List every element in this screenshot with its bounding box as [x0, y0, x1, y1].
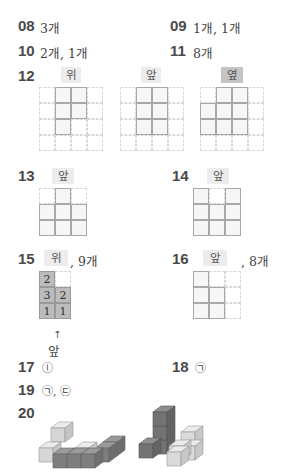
grid-cell — [55, 188, 71, 204]
q16-view-label: 앞 — [203, 250, 227, 266]
grid-cell — [39, 103, 55, 119]
grid-cell: 3 — [39, 287, 55, 303]
view-label-side: 옆 — [221, 67, 243, 83]
answer-11: 8개 — [193, 43, 213, 62]
grid-cell — [152, 135, 168, 151]
view-label-top: 위 — [61, 67, 81, 83]
grid-cell — [39, 188, 55, 204]
grid-cell — [87, 87, 103, 103]
grid-cell — [71, 220, 87, 236]
grid-cell — [200, 119, 216, 135]
grid-cell — [193, 220, 209, 236]
grid-cell — [168, 135, 184, 151]
grid-cell: 1 — [55, 303, 71, 319]
grid-cell — [71, 188, 87, 204]
grid-cell — [152, 87, 168, 103]
question-number-08: 08 — [18, 17, 35, 34]
grid-cell — [120, 87, 136, 103]
question-number-10: 10 — [18, 42, 35, 59]
grid-cell — [209, 220, 225, 236]
grid-cell — [193, 188, 209, 204]
grid-cell — [193, 287, 209, 303]
answer-09: 1개, 1개 — [193, 18, 241, 37]
grid-cell — [200, 103, 216, 119]
grid-cell — [136, 103, 152, 119]
view-label-front: 앞 — [141, 67, 161, 83]
question-number-15: 15 — [18, 250, 35, 267]
question-number-13: 13 — [18, 167, 35, 184]
grid-cell — [209, 287, 225, 303]
q16-count: , 8개 — [241, 251, 269, 270]
grid-cell — [225, 188, 241, 204]
grid-cell — [209, 188, 225, 204]
cube-structure-1 — [35, 412, 135, 475]
grid-cell — [216, 135, 232, 151]
grid-cell — [55, 271, 71, 287]
grid-cell — [225, 204, 241, 220]
question-number-19: 19 — [18, 381, 35, 398]
grid-cell — [136, 87, 152, 103]
grid-cell — [71, 204, 87, 220]
grid-cell — [209, 271, 225, 287]
q15-view-label: 위 — [44, 250, 68, 266]
cube-structure-2 — [135, 398, 215, 475]
grid-cell — [168, 103, 184, 119]
grid-cell — [39, 204, 55, 220]
question-number-18: 18 — [172, 358, 189, 375]
grid-cell — [225, 287, 241, 303]
grid-cell — [55, 103, 71, 119]
grid-cell — [71, 119, 87, 135]
grid-cell — [216, 103, 232, 119]
grid-cell — [248, 103, 264, 119]
arrow-up-icon: ↑ — [53, 329, 61, 340]
grid-cell — [39, 220, 55, 236]
grid-cell — [200, 135, 216, 151]
grid-cell — [39, 87, 55, 103]
q15-front-label: 앞 — [48, 341, 60, 360]
grid-cell: 2 — [39, 271, 55, 287]
grid-cell — [55, 220, 71, 236]
q15-count: , 9개 — [70, 251, 98, 270]
question-number-09: 09 — [170, 17, 187, 34]
grid-cell — [71, 103, 87, 119]
grid-cell — [136, 135, 152, 151]
answer-10: 2개, 1개 — [40, 43, 88, 62]
answer-19: ㉠, ㉢ — [42, 382, 71, 398]
grid-cell — [55, 87, 71, 103]
grid-cell — [232, 103, 248, 119]
grid-cell — [120, 135, 136, 151]
q13-view-label: 앞 — [52, 168, 74, 184]
question-number-16: 16 — [172, 250, 189, 267]
grid-cell — [193, 204, 209, 220]
grid-cell — [193, 271, 209, 287]
grid-cell: 2 — [55, 287, 71, 303]
grid-cell — [209, 303, 225, 319]
grid-cell — [55, 119, 71, 135]
grid-cell — [55, 204, 71, 220]
grid-cell — [216, 87, 232, 103]
grid-cell — [200, 87, 216, 103]
question-number-17: 17 — [18, 358, 35, 375]
grid-cell — [87, 103, 103, 119]
grid-cell — [120, 119, 136, 135]
answer-17: ⓛ — [42, 359, 53, 375]
question-number-11: 11 — [170, 42, 186, 59]
grid-cell — [225, 220, 241, 236]
answer-08: 3개 — [40, 18, 60, 37]
grid-cell — [248, 87, 264, 103]
grid-cell — [152, 119, 168, 135]
grid-cell — [248, 135, 264, 151]
grid-cell — [120, 103, 136, 119]
grid-cell — [225, 303, 241, 319]
grid-cell — [39, 119, 55, 135]
answer-18: ㉠ — [195, 359, 206, 375]
grid-cell — [71, 135, 87, 151]
grid-cell — [248, 119, 264, 135]
grid-cell — [87, 119, 103, 135]
grid-cell — [55, 135, 71, 151]
grid-cell — [39, 135, 55, 151]
q14-view-label: 앞 — [207, 168, 229, 184]
grid-cell — [225, 271, 241, 287]
grid-cell — [71, 87, 87, 103]
grid-cell — [152, 103, 168, 119]
